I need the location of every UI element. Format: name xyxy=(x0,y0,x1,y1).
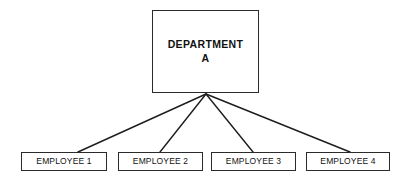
department-node[interactable]: DEPARTMENT A xyxy=(152,10,259,93)
employee-node[interactable]: EMPLOYEE 2 xyxy=(118,152,203,171)
connector-line xyxy=(160,94,206,152)
employee-node[interactable]: EMPLOYEE 4 xyxy=(306,152,390,171)
employee-node-label: EMPLOYEE 3 xyxy=(226,157,281,166)
employee-node[interactable]: EMPLOYEE 3 xyxy=(211,152,296,171)
connector-line xyxy=(206,94,350,152)
department-node-label: DEPARTMENT A xyxy=(168,38,244,65)
connector-line xyxy=(78,94,206,152)
employee-node-label: EMPLOYEE 4 xyxy=(320,157,375,166)
employee-node-label: EMPLOYEE 1 xyxy=(36,157,91,166)
employee-node[interactable]: EMPLOYEE 1 xyxy=(21,152,107,171)
connector-line xyxy=(206,94,253,152)
org-chart-canvas: DEPARTMENT A EMPLOYEE 1EMPLOYEE 2EMPLOYE… xyxy=(0,0,411,182)
employee-node-label: EMPLOYEE 2 xyxy=(133,157,188,166)
